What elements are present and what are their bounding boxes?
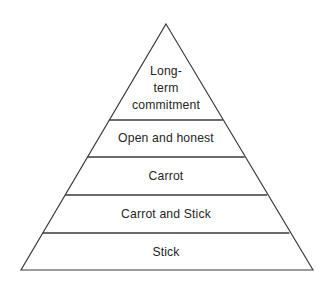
pyramid-diagram-canvas: Long- term commitment Open and honest Ca…: [0, 0, 335, 289]
pyramid-tier-stick[interactable]: Stick: [152, 245, 180, 259]
pyramid-diagram: Long- term commitment Open and honest Ca…: [0, 0, 335, 289]
tier-label-open-and-honest: Open and honest: [118, 131, 214, 145]
tier-label-carrot: Carrot: [149, 169, 184, 183]
pyramid-tier-carrot-and-stick[interactable]: Carrot and Stick: [121, 207, 212, 221]
pyramid-tier-carrot[interactable]: Carrot: [149, 169, 184, 183]
tier-label-stick: Stick: [152, 245, 180, 259]
tier-label-line-3: commitment: [132, 98, 200, 112]
pyramid-tier-open-and-honest[interactable]: Open and honest: [118, 131, 214, 145]
tier-label-line-2: term: [154, 81, 179, 95]
tier-label-carrot-and-stick: Carrot and Stick: [121, 207, 212, 221]
tier-label-line-1: Long-: [150, 64, 182, 78]
